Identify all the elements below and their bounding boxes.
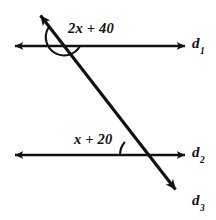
line-label-d1: d1 [192,36,204,55]
line-label-d3-subscript: 3 [200,203,205,213]
line-label-d1-name: d [192,35,200,51]
line-label-d2-name: d [192,144,200,160]
line-label-d2: d2 [192,145,204,164]
line-label-d3-name: d [192,192,200,208]
line-label-d3: d3 [192,193,204,212]
line-d3-transversal [41,16,176,190]
angle-label-bottom: x + 20 [74,132,112,147]
angle-arc-bottom [120,143,124,156]
line-label-d2-subscript: 2 [200,155,205,165]
geometry-figure: 2x + 40 x + 20 d1 d2 d3 [0,0,216,220]
angle-label-top: 2x + 40 [68,21,114,36]
line-label-d1-subscript: 1 [200,46,205,56]
